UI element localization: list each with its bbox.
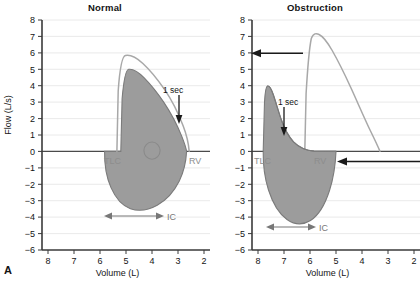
svg-text:3: 3 <box>175 256 180 266</box>
svg-text:3: 3 <box>30 97 35 107</box>
ic-label-normal: IC <box>167 212 177 222</box>
svg-text:7: 7 <box>281 256 286 266</box>
svg-text:0: 0 <box>30 147 35 157</box>
svg-text:−3: −3 <box>235 196 245 206</box>
svg-text:−1: −1 <box>25 163 35 173</box>
svg-text:7: 7 <box>240 32 245 42</box>
svg-text:2: 2 <box>201 256 206 266</box>
svg-text:8: 8 <box>240 15 245 25</box>
svg-text:−6: −6 <box>25 245 35 255</box>
flow-volume-loop-figure: Normal <box>0 0 420 289</box>
svg-text:2: 2 <box>411 256 416 266</box>
svg-text:1: 1 <box>240 130 245 140</box>
x-tick-labels-obstruction: 8 7 6 5 4 3 2 <box>255 256 416 266</box>
plot-area-normal: 8 7 6 5 4 3 2 1 0 −1 −2 −3 −4 −5 −6 <box>0 0 210 289</box>
svg-text:2: 2 <box>240 114 245 124</box>
plot-area-obstruction: 8 7 6 5 4 3 2 1 0 −1 −2 −3 −4 −5 −6 <box>210 0 420 289</box>
svg-text:8: 8 <box>255 256 260 266</box>
normal-reference-overlay-curve <box>305 34 380 152</box>
svg-text:−5: −5 <box>235 229 245 239</box>
y-tick-labels-obstruction: 8 7 6 5 4 3 2 1 0 −1 −2 −3 −4 −5 −6 <box>235 15 245 255</box>
tlc-label-obstruction: TLC <box>254 156 272 166</box>
svg-text:7: 7 <box>71 256 76 266</box>
shaded-flow-volume-loop-obstruction <box>263 86 336 224</box>
svg-text:−5: −5 <box>25 229 35 239</box>
svg-text:6: 6 <box>30 48 35 58</box>
one-sec-label-normal: 1 sec <box>163 85 183 95</box>
svg-text:5: 5 <box>240 65 245 75</box>
svg-text:−1: −1 <box>235 163 245 173</box>
ic-arrowhead-left-obstruction <box>266 224 274 231</box>
ic-label-obstruction: IC <box>319 223 329 233</box>
svg-text:−4: −4 <box>235 212 245 222</box>
ic-arrowhead-left-normal <box>104 213 112 220</box>
svg-text:6: 6 <box>240 48 245 58</box>
svg-text:4: 4 <box>359 256 364 266</box>
svg-text:7: 7 <box>30 32 35 42</box>
svg-text:−6: −6 <box>235 245 245 255</box>
svg-text:−2: −2 <box>25 180 35 190</box>
panel-normal: Normal <box>0 0 210 289</box>
one-sec-label-obstruction: 1 sec <box>278 97 298 107</box>
svg-text:6: 6 <box>307 256 312 266</box>
ic-arrowhead-right-normal <box>156 213 164 220</box>
svg-text:1: 1 <box>30 130 35 140</box>
svg-text:4: 4 <box>240 81 245 91</box>
svg-text:−3: −3 <box>25 196 35 206</box>
rv-label-normal: RV <box>189 156 201 166</box>
peak-flow-reduction-arrow <box>251 49 303 57</box>
svg-text:0: 0 <box>240 147 245 157</box>
rv-increase-arrow <box>337 158 420 166</box>
svg-text:3: 3 <box>240 97 245 107</box>
y-axis-label-normal: Flow (L/s) <box>3 80 13 150</box>
x-axis-label-obstruction: Volume (L) <box>240 268 415 278</box>
panel-obstruction: Obstruction <box>210 0 420 289</box>
svg-text:6: 6 <box>97 256 102 266</box>
svg-text:−4: −4 <box>25 212 35 222</box>
svg-text:8: 8 <box>45 256 50 266</box>
svg-text:8: 8 <box>30 15 35 25</box>
panel-letter-a: A <box>4 264 12 276</box>
svg-text:−2: −2 <box>235 180 245 190</box>
svg-text:3: 3 <box>385 256 390 266</box>
y-tick-labels-normal: 8 7 6 5 4 3 2 1 0 −1 −2 −3 −4 −5 −6 <box>25 15 35 255</box>
svg-text:2: 2 <box>30 114 35 124</box>
svg-text:4: 4 <box>149 256 154 266</box>
svg-text:5: 5 <box>333 256 338 266</box>
svg-text:5: 5 <box>123 256 128 266</box>
svg-text:4: 4 <box>30 81 35 91</box>
x-axis-label-normal: Volume (L) <box>30 268 205 278</box>
tlc-label-normal: TLC <box>104 156 122 166</box>
ic-arrowhead-right-obstruction <box>308 224 316 231</box>
x-tick-labels-normal: 8 7 6 5 4 3 2 <box>45 256 206 266</box>
svg-text:5: 5 <box>30 65 35 75</box>
rv-label-obstruction: RV <box>314 156 326 166</box>
